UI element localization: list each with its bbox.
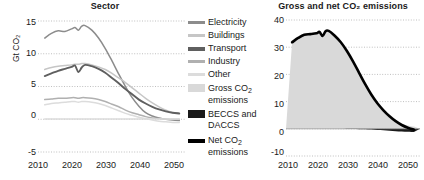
series-line-buildings [45,63,180,114]
legend-swatch-gross-co2-icon [188,84,205,92]
legend-label-gross-co2: Gross CO2 emissions [208,83,262,105]
legend-swatch-transport-icon [188,47,205,51]
chart-panel-sector: Sector Gt CO₂ 15 10 5 0 -5 2010 2020 203… [0,0,190,180]
legend-label-other: Other [208,69,231,80]
legend-item-electricity[interactable]: Electricity [188,17,247,28]
legend-item-beccs-daccs[interactable]: BECCS and DACCS [188,109,264,130]
series-areas-gross-net [286,30,420,132]
figure-root: Sector Gt CO₂ 15 10 5 0 -5 2010 2020 203… [0,0,424,180]
legend-label-net-co2: Net CO2 emissions [208,135,262,157]
gridlines-sector [38,21,186,152]
legend-item-buildings[interactable]: Buildings [188,30,245,41]
legend-item-gross-co2[interactable]: Gross CO2 emissions [188,83,264,105]
chart-panel-gross-net: Gross and net CO₂ emissions 40 30 20 10 … [262,0,424,180]
series-area-beccs-and-daccs [286,129,420,132]
legend-swatch-industry-icon [188,60,205,63]
legend-item-transport[interactable]: Transport [188,43,246,54]
legend-item-other[interactable]: Other [188,69,231,80]
legend-label-transport: Transport [208,43,246,54]
legend-item-net-co2[interactable]: Net CO2 emissions [188,135,264,157]
chart-legend: Electricity Buildings Transport Industry… [186,0,264,180]
legend-label-industry: Industry [208,56,240,67]
legend-swatch-other-icon [188,73,205,76]
series-lines-sector [45,25,180,122]
legend-swatch-buildings-icon [188,34,205,37]
legend-swatch-net-co2-icon [188,139,205,143]
legend-item-industry[interactable]: Industry [188,56,240,67]
legend-label-electricity: Electricity [208,17,247,28]
plot-area-sector [0,0,190,180]
plot-area-gross-net [262,0,424,180]
legend-label-buildings: Buildings [208,30,245,41]
legend-swatch-beccs-daccs-icon [188,110,205,118]
legend-swatch-electricity-icon [188,21,205,24]
legend-label-beccs-daccs: BECCS and DACCS [208,109,262,130]
series-area-gross-co2-emissions [286,30,420,128]
